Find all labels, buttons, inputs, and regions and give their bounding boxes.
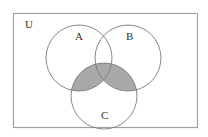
set-c-label: C <box>101 109 108 121</box>
venn-diagram: U A B C <box>0 0 208 137</box>
set-a-label: A <box>75 30 83 42</box>
set-b-label: B <box>126 30 133 42</box>
venn-svg: U A B C <box>0 0 208 137</box>
universe-label: U <box>25 18 33 30</box>
